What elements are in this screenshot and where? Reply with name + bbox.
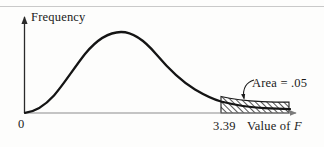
critical-value-tick-label: 3.39 bbox=[213, 119, 236, 134]
origin-tick-label: 0 bbox=[18, 117, 24, 132]
x-axis-label-prefix: Value of bbox=[247, 119, 294, 133]
x-axis-label-variable: F bbox=[294, 119, 302, 133]
y-axis-label: Frequency bbox=[31, 10, 86, 25]
area-annotation-label: Area = .05 bbox=[252, 76, 307, 91]
x-axis-label: Value of F bbox=[247, 119, 302, 134]
f-distribution-figure: Frequency 0 3.39 Value of F Area = .05 bbox=[0, 0, 324, 147]
